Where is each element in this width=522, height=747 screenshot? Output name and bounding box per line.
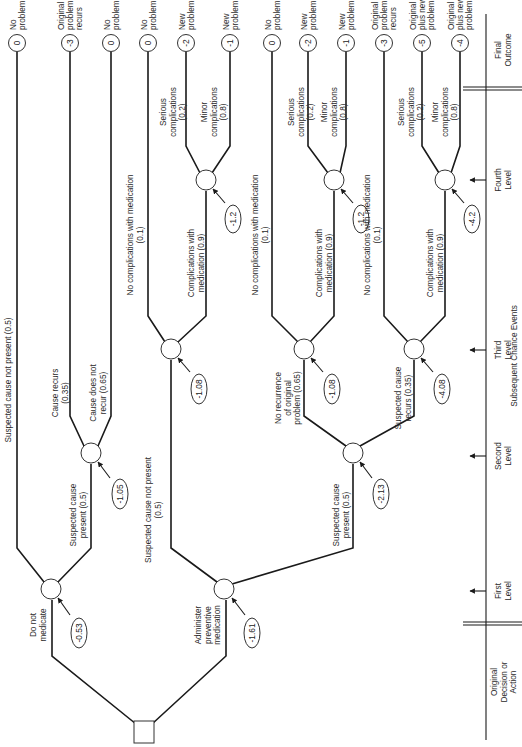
svg-text:New: New: [222, 14, 231, 30]
label-serious-3: Seriouscomplications(0.2): [397, 87, 425, 137]
svg-text:Minor: Minor: [431, 101, 440, 122]
svg-text:Minor: Minor: [200, 101, 209, 122]
outcome-label: Originalplus newproblems: [409, 0, 436, 30]
svg-text:problem: problem: [380, 0, 389, 30]
svg-text:problem: problem: [149, 0, 158, 30]
svg-text:complications: complications: [210, 87, 219, 137]
svg-text:(0.1): (0.1): [261, 226, 270, 243]
ev-l4-a: -1.2: [228, 211, 238, 226]
outcome-value: -2: [181, 39, 191, 47]
label-suspected-present-b: Suspected causepresent (0.5): [332, 483, 351, 546]
outcome-value: -5: [417, 39, 427, 47]
decision-tree-diagram: -0.53 -1.61 -1.05 -2.13 -1.08 -1.08 -4.0…: [0, 0, 522, 747]
stage-first-level: FirstLevel: [494, 581, 513, 601]
label-suspected-not-present-b: Suspected cause not present(0.5): [144, 456, 163, 563]
svg-text:Minor: Minor: [320, 101, 329, 122]
svg-text:Suspected cause not present: Suspected cause not present: [144, 456, 153, 563]
svg-text:problem: problem: [273, 0, 282, 30]
svg-text:complications: complications: [330, 87, 339, 137]
svg-text:recurs: recurs: [75, 7, 84, 30]
svg-text:No: No: [103, 19, 112, 30]
chance-node-l3-a: [161, 339, 181, 359]
stage-fourth-level: FourthLevel: [494, 168, 513, 192]
svg-text:Subsequent Chance Events: Subsequent Chance Events: [510, 305, 519, 407]
svg-text:Fourth: Fourth: [494, 168, 503, 192]
label-suspected-present-a: Suspected causepresent (0.5): [69, 483, 88, 546]
svg-text:Original: Original: [447, 2, 456, 30]
svg-text:of original: of original: [284, 380, 293, 416]
svg-text:Second: Second: [494, 442, 503, 470]
stage-subsequent-chance-events: Subsequent Chance Events: [510, 305, 519, 407]
svg-text:complications: complications: [169, 87, 178, 137]
outcome-label: Noproblem: [140, 0, 158, 30]
outcome-value: -4: [455, 39, 465, 47]
svg-text:Outcome: Outcome: [504, 33, 513, 67]
svg-text:present (0.5): present (0.5): [79, 492, 88, 539]
svg-text:No: No: [264, 19, 273, 30]
outcome-value: 0: [12, 40, 22, 45]
label-cause-recurs: Cause recurs(0.35): [51, 369, 70, 418]
svg-text:Cause does not: Cause does not: [89, 364, 98, 422]
label-cause-not-recur: Cause does notrecur (0.65): [89, 364, 108, 422]
svg-text:No: No: [9, 19, 18, 30]
label-administer: Administerpreventivemedication: [194, 605, 222, 645]
label-serious-2: Seriouscomplications(0.2): [287, 87, 315, 137]
ev-administer: -1.61: [247, 623, 257, 642]
chance-node-l4-b: [324, 170, 344, 190]
svg-text:problems: problems: [427, 0, 436, 30]
svg-text:No complications with medicati: No complications with medication: [251, 174, 260, 295]
label-do-not-medicate: Do notmedicate: [29, 608, 48, 642]
svg-text:(0.2): (0.2): [306, 103, 315, 120]
label-suspected-recurs: Suspected causerecurs (0.35): [394, 366, 413, 429]
outcome-label: Originalplus newproblems: [447, 0, 474, 30]
ev-l3-b: -1.08: [327, 379, 337, 398]
chance-node-l4-a: [196, 170, 216, 190]
label-no-complications-1: No complications with medication(0.1): [126, 174, 145, 295]
expected-values: -0.53 -1.61 -1.05 -2.13 -1.08 -1.08 -4.0…: [58, 189, 480, 648]
branch-labels: Do notmedicateAdministerpreventivemedica…: [4, 87, 459, 645]
svg-text:problem: problem: [18, 0, 27, 30]
ev-l3-a: -1.08: [194, 379, 204, 398]
svg-text:Level: Level: [504, 446, 513, 466]
outcome-value: -1: [225, 39, 235, 47]
svg-text:Level: Level: [504, 170, 513, 190]
svg-text:New: New: [178, 14, 187, 30]
label-minor-3: Minorcomplications(0.8): [431, 87, 459, 137]
svg-text:Action: Action: [509, 670, 518, 693]
label-complications-2: Complications withmedication (0.9): [315, 228, 334, 297]
svg-text:(0.8): (0.8): [450, 103, 459, 120]
svg-text:Suspected cause: Suspected cause: [69, 483, 78, 546]
svg-text:problem: problem: [347, 0, 356, 30]
outcome-label: Newproblem: [338, 0, 356, 30]
label-complications-1: Complications withmedication (0.9): [187, 228, 206, 297]
svg-text:medication (0.9): medication (0.9): [325, 233, 334, 292]
svg-text:medication: medication: [213, 605, 222, 645]
outcome-label: Newproblem: [300, 0, 318, 30]
svg-text:recur (0.65): recur (0.65): [99, 372, 108, 415]
label-no-complications-2: No complications with medication(0.1): [251, 174, 270, 295]
outcome-label: Originalproblemrecurs: [57, 0, 84, 30]
svg-text:Original: Original: [57, 2, 66, 30]
svg-text:medication (0.9): medication (0.9): [197, 233, 206, 292]
svg-text:First: First: [494, 582, 503, 599]
svg-text:Administer: Administer: [194, 605, 203, 644]
svg-text:complications: complications: [407, 87, 416, 137]
svg-text:problem: problem: [112, 0, 121, 30]
svg-text:Complications with: Complications with: [187, 228, 196, 297]
svg-text:(0.1): (0.1): [373, 226, 382, 243]
outcome-label: Newproblem: [222, 0, 240, 30]
svg-text:Cause recurs: Cause recurs: [51, 369, 60, 418]
svg-text:Suspected cause not present (0: Suspected cause not present (0.5): [4, 317, 13, 442]
stage-labels: OriginalDecision orActionFirstLevelSecon…: [490, 33, 519, 703]
svg-text:No complications with medicati: No complications with medication: [126, 174, 135, 295]
label-no-recurrence: No recurrenceof originalproblem (0.65): [274, 371, 302, 425]
outcome-value: -3: [379, 39, 389, 47]
svg-text:problem: problem: [187, 0, 196, 30]
svg-text:No recurrence: No recurrence: [274, 372, 283, 424]
label-no-complications-3: No complications with medication(0.1): [363, 174, 382, 295]
chance-node-do-not-medicate: [41, 579, 61, 599]
chance-node-l3-c: [404, 339, 424, 359]
svg-text:Decision or: Decision or: [500, 661, 509, 702]
svg-text:Original: Original: [490, 668, 499, 696]
outcome-label: Originalproblemrecurs: [371, 0, 398, 30]
